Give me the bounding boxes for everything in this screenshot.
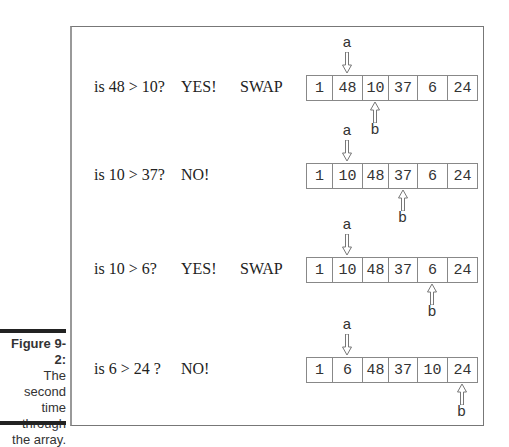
pointer-a-label: a xyxy=(337,318,357,334)
caption-line: time xyxy=(0,400,66,416)
pointer-a: a xyxy=(337,218,357,256)
arrow-down-icon xyxy=(337,52,357,74)
pointer-a-label: a xyxy=(337,218,357,234)
array-cell: 37 xyxy=(389,358,418,382)
pointer-b: b xyxy=(393,189,413,227)
pointer-b-label: b xyxy=(422,305,442,321)
array-row: 1648371024 xyxy=(306,357,478,383)
array-cell: 10 xyxy=(418,358,448,382)
pointer-b-label: b xyxy=(452,405,472,421)
step-action: SWAP xyxy=(240,78,283,96)
caption-line: The second xyxy=(0,368,66,400)
array-cell: 37 xyxy=(389,76,418,100)
arrow-up-icon xyxy=(452,383,472,405)
step-question: is 10 > 37? xyxy=(94,166,165,184)
pointer-b: b xyxy=(452,383,472,421)
array-cell: 1 xyxy=(307,76,333,100)
arrow-down-icon xyxy=(337,234,357,256)
array-cell: 1 xyxy=(307,258,333,282)
pointer-a: a xyxy=(337,318,357,356)
figure-caption: Figure 9-2: The second time through the … xyxy=(0,336,66,447)
caption-top-rule xyxy=(0,329,66,333)
figure-label: Figure 9-2: xyxy=(0,336,66,368)
arrow-up-icon xyxy=(365,101,385,123)
array-cell: 48 xyxy=(363,164,389,188)
arrow-down-icon xyxy=(337,140,357,162)
pointer-b: b xyxy=(422,283,442,321)
array-cell: 1 xyxy=(307,164,333,188)
array-cell: 6 xyxy=(333,358,363,382)
pointer-a: a xyxy=(337,124,357,162)
caption-line: the array. xyxy=(0,432,66,447)
arrow-up-icon xyxy=(422,283,442,305)
caption-bottom-rule xyxy=(0,421,66,425)
pointer-a-label: a xyxy=(337,124,357,140)
arrow-down-icon xyxy=(337,334,357,356)
array-cell: 6 xyxy=(418,164,448,188)
array-row: 1104837624 xyxy=(306,163,478,189)
pointer-a-label: a xyxy=(337,36,357,52)
array-cell: 37 xyxy=(389,164,418,188)
arrow-up-icon xyxy=(393,189,413,211)
array-cell: 1 xyxy=(307,358,333,382)
array-cell: 48 xyxy=(363,358,389,382)
array-cell: 24 xyxy=(448,358,477,382)
step-answer: NO! xyxy=(181,166,209,184)
array-cell: 6 xyxy=(418,258,448,282)
pointer-b: b xyxy=(365,101,385,139)
step-answer: YES! xyxy=(181,260,217,278)
array-cell: 10 xyxy=(333,258,363,282)
array-cell: 48 xyxy=(333,76,363,100)
array-cell: 10 xyxy=(363,76,389,100)
array-cell: 24 xyxy=(448,164,477,188)
array-cell: 10 xyxy=(333,164,363,188)
pointer-b-label: b xyxy=(365,123,385,139)
array-row: 1481037624 xyxy=(306,75,478,101)
pointer-a: a xyxy=(337,36,357,74)
array-cell: 37 xyxy=(389,258,418,282)
array-cell: 24 xyxy=(448,76,477,100)
step-question: is 6 > 24 ? xyxy=(94,360,161,378)
pointer-b-label: b xyxy=(393,211,413,227)
step-answer: NO! xyxy=(181,360,209,378)
array-row: 1104837624 xyxy=(306,257,478,283)
step-answer: YES! xyxy=(181,78,217,96)
array-cell: 6 xyxy=(418,76,448,100)
step-action: SWAP xyxy=(240,260,283,278)
step-question: is 10 > 6? xyxy=(94,260,157,278)
step-question: is 48 > 10? xyxy=(94,78,165,96)
array-cell: 24 xyxy=(448,258,477,282)
array-cell: 48 xyxy=(363,258,389,282)
